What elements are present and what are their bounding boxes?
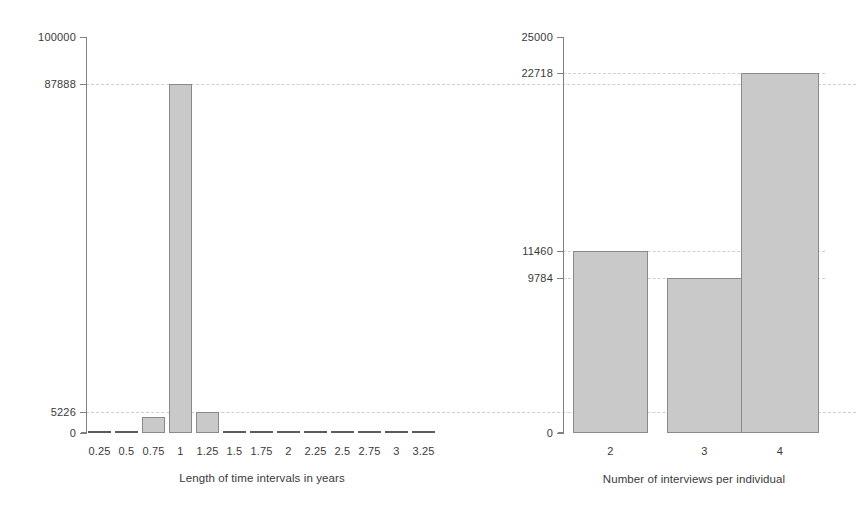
left-ylabel-0: 0 [70,427,76,439]
left-xlabel-0.25: 0.25 [88,445,110,457]
left-xlabel-0.5: 0.5 [119,445,135,457]
right-xlabel-4: 4 [777,445,783,457]
right-ytick-22718 [557,73,564,74]
bar-3 [667,278,742,433]
bar-1.75 [250,431,273,433]
right-ylabel-9784: 9784 [528,272,553,284]
left-xlabel-3.25: 3.25 [412,445,434,457]
bar-3.25 [412,431,435,433]
bar-1.5 [223,431,246,433]
left-xlabel-2.75: 2.75 [358,445,380,457]
two-panel-bar-chart-figure: 100000 87888 5226 0 0.25 0.5 0.75 1 1.25 [0,0,859,524]
left-ylabel-87888: 87888 [44,78,76,90]
bar-0.5 [115,431,138,433]
left-ytick-100000 [80,37,87,38]
left-xlabel-1.75: 1.75 [250,445,272,457]
bar-2.25 [304,431,327,433]
bar-2 [277,431,300,433]
left-ytick-5226 [80,412,87,413]
bar-3 [385,431,408,433]
right-ylabel-0: 0 [547,427,553,439]
left-xlabel-0.75: 0.75 [142,445,164,457]
bar-1 [169,84,192,433]
bar-0.25 [88,431,111,433]
right-ytick-9784 [557,278,564,279]
left-xlabel-3: 3 [393,445,399,457]
right-xlabel-3: 3 [701,445,707,457]
left-xlabel-2.5: 2.5 [335,445,351,457]
right-plot-area: 25000 22718 11460 9784 0 2 3 4 Number of… [563,37,825,433]
left-plot-area: 100000 87888 5226 0 0.25 0.5 0.75 1 1.25 [86,37,438,433]
bar-1.25 [196,412,219,433]
left-ylabel-100000: 100000 [38,31,76,43]
left-xlabel-1.5: 1.5 [227,445,243,457]
left-xlabel-1.25: 1.25 [196,445,218,457]
right-chart-panel: 25000 22718 11460 9784 0 2 3 4 Number of… [455,0,859,524]
right-ylabel-11460: 11460 [522,245,553,257]
right-axis-title: Number of interviews per individual [563,473,825,485]
left-xlabel-2: 2 [285,445,291,457]
right-xlabel-2: 2 [607,445,613,457]
bar-0.75 [142,417,165,433]
bar-2.5 [331,431,354,433]
left-chart-panel: 100000 87888 5226 0 0.25 0.5 0.75 1 1.25 [0,0,455,524]
right-y-axis-line [563,37,564,433]
left-ytick-0 [80,433,87,434]
left-y-axis-line [86,37,87,433]
bar-4 [741,73,819,433]
left-ylabel-5226: 5226 [51,406,76,418]
right-ytick-11460 [557,251,564,252]
left-xlabel-1: 1 [177,445,183,457]
right-ytick-0 [557,433,564,434]
right-ylabel-22718: 22718 [521,67,553,79]
bar-2 [573,251,648,433]
left-ytick-87888 [80,84,87,85]
left-xlabel-2.25: 2.25 [304,445,326,457]
right-ytick-25000 [557,37,564,38]
right-ylabel-25000: 25000 [521,31,553,43]
bar-2.75 [358,431,381,433]
left-axis-title: Length of time intervals in years [86,472,438,484]
